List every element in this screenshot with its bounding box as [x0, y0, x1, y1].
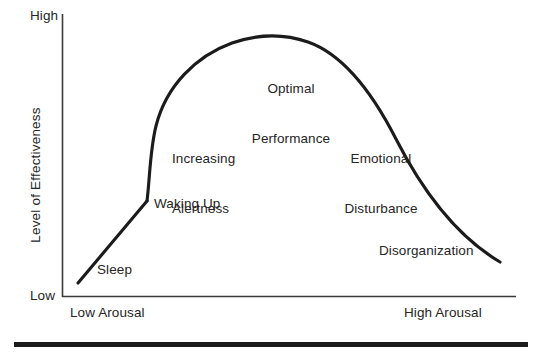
annotation-emotional-disturbance-line2: Disturbance [332, 201, 430, 218]
annotation-optimal-performance-line1: Optimal [237, 81, 345, 98]
bottom-divider-rule [14, 342, 528, 347]
annotation-increasing-alertness-line1: Increasing [172, 151, 235, 168]
annotation-increasing-alertness: Increasing Alertness [172, 118, 235, 250]
annotation-emotional-disturbance: Emotional Disturbance [332, 118, 430, 250]
y-axis-low-label: Low [30, 288, 55, 305]
annotation-optimal-performance: Optimal Performance [237, 48, 345, 180]
y-axis-high-label: High [30, 8, 58, 25]
annotation-emotional-disturbance-line1: Emotional [332, 151, 430, 168]
y-axis-title-text: Level of Effectiveness [28, 80, 43, 270]
arousal-performance-figure: High Low Level of Effectiveness Low Arou… [0, 0, 540, 356]
x-axis-low-arousal-label: Low Arousal [70, 305, 145, 322]
annotation-sleep: Sleep [97, 262, 132, 279]
annotation-optimal-performance-line2: Performance [237, 131, 345, 148]
x-axis-high-arousal-label: High Arousal [404, 305, 482, 322]
annotation-disorganization: Disorganization [379, 243, 474, 260]
annotation-increasing-alertness-line2: Alertness [172, 201, 235, 218]
